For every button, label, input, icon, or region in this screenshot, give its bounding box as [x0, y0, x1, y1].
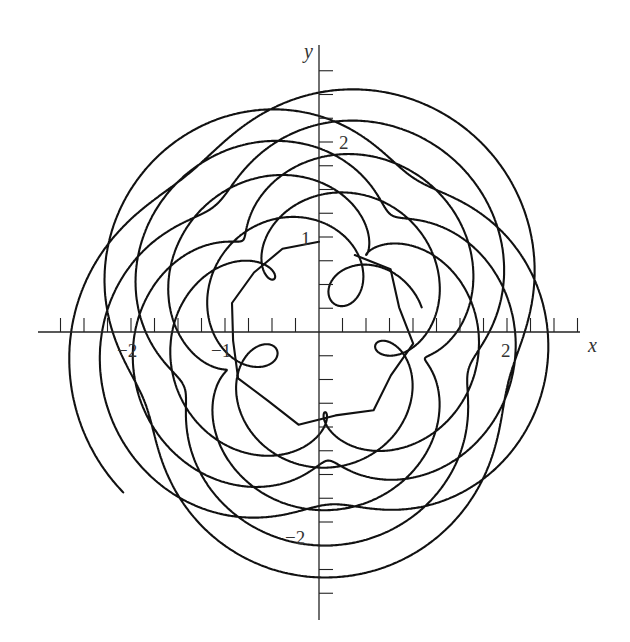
x-tick-label: 2 — [501, 340, 511, 361]
trajectory-plot: −2−12 21−2 x y — [0, 0, 630, 642]
y-tick-label: −2 — [285, 527, 305, 548]
x-tick-label: −1 — [211, 340, 231, 361]
y-tick-labels: 21−2 — [285, 132, 349, 548]
trajectory-line — [69, 89, 548, 577]
trajectory-curve — [69, 89, 548, 577]
x-tick-label: −2 — [117, 340, 137, 361]
y-axis-label: y — [302, 40, 313, 63]
y-tick-label: 2 — [339, 132, 349, 153]
x-axis-label: x — [587, 334, 597, 356]
x-tick-labels: −2−12 — [117, 340, 511, 361]
y-tick-label: 1 — [301, 228, 311, 249]
